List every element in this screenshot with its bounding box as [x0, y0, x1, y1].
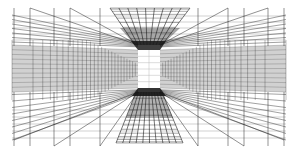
perspective-grid-corridor — [0, 0, 298, 152]
grid-drawing — [0, 0, 298, 152]
